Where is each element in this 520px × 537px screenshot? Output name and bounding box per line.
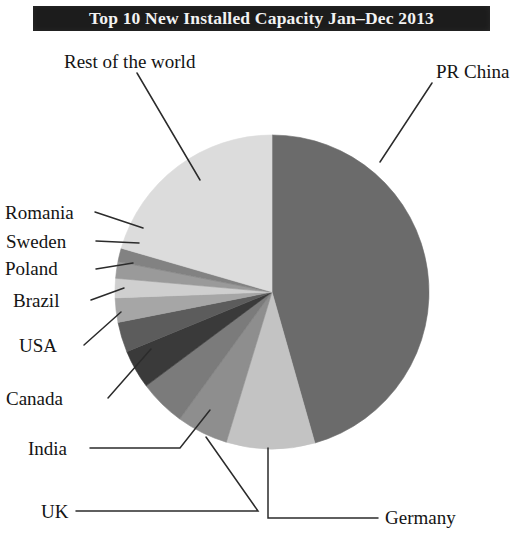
pie-label-uk: UK (41, 502, 68, 521)
leader-line-germany (268, 448, 378, 518)
pie-label-romania: Romania (5, 203, 74, 222)
pie-slices (115, 135, 429, 449)
leader-line-pr-china (380, 83, 432, 162)
pie-label-germany: Germany (385, 508, 456, 527)
pie-label-pr-china: PR China (436, 62, 509, 81)
pie-label-brazil: Brazil (13, 291, 59, 310)
leader-line-usa (84, 312, 121, 345)
pie-label-sweden: Sweden (6, 232, 66, 251)
pie-label-usa: USA (19, 336, 57, 355)
pie-label-india: India (28, 439, 67, 458)
pie-chart-figure: Top 10 New Installed Capacity Jan–Dec 20… (0, 0, 520, 537)
pie-label-poland: Poland (5, 259, 58, 278)
leader-line-rest-of-the-world (137, 73, 200, 180)
pie-label-canada: Canada (6, 389, 63, 408)
pie-label-rest-of-the-world: Rest of the world (64, 52, 195, 71)
